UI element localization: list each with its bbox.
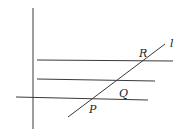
top-horizontal-line: [37, 60, 173, 61]
geometry-diagram: R Q P l: [0, 0, 186, 139]
label-Q: Q: [119, 87, 128, 100]
bottom-horizontal-line: [16, 97, 148, 100]
label-l: l: [170, 37, 174, 50]
middle-horizontal-line: [37, 79, 155, 81]
label-P: P: [88, 103, 97, 116]
label-R: R: [138, 47, 147, 60]
